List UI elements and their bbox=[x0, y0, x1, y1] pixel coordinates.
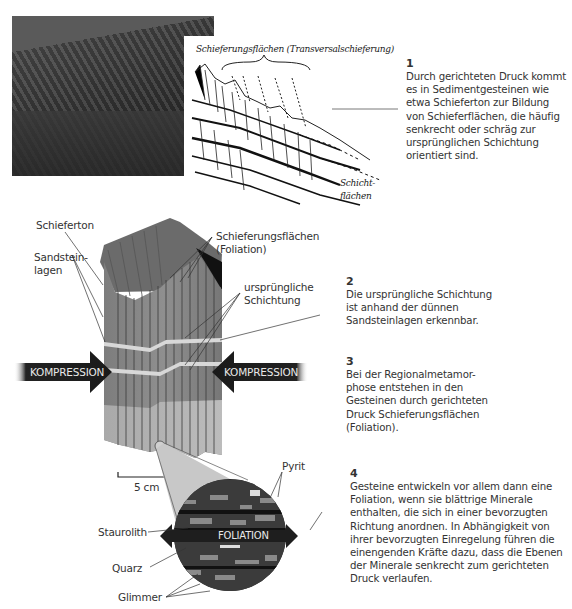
label-pyrit: Pyrit bbox=[282, 460, 305, 473]
note-2-text: Die ursprüngliche Schichtung ist anhand … bbox=[346, 289, 492, 326]
label-schichtung-2: Schichtung bbox=[244, 294, 301, 307]
note-4: 4 Gesteine entwickeln vor allem dann ein… bbox=[350, 468, 568, 586]
note-2-number: 2 bbox=[346, 276, 496, 288]
compression-right-label: KOMPRESSION bbox=[224, 366, 298, 378]
label-sandstein-2: lagen bbox=[34, 264, 62, 277]
note-2: 2 Die ursprüngliche Schichtung ist anhan… bbox=[346, 276, 496, 328]
note-1-text: Durch gerichteten Druck kommt es in Sedi… bbox=[406, 71, 566, 161]
label-sandstein-1: Sandstein- bbox=[34, 251, 88, 264]
note-3-text: Bei der Regionalmetamor-phose entstehen … bbox=[346, 369, 488, 433]
sketch-label-flaechen: flächen bbox=[340, 191, 371, 201]
label-staurolith: Staurolith bbox=[98, 526, 147, 539]
note-3-number: 3 bbox=[346, 356, 496, 368]
label-schichtung-1: ursprüngliche bbox=[244, 281, 314, 294]
foliation-arrow-label: FOLIATION bbox=[218, 530, 269, 541]
sketch-label-schicht: Schicht- bbox=[340, 178, 375, 188]
note-4-text: Gesteine entwickeln vor allem dann eine … bbox=[350, 481, 563, 584]
compression-left-label: KOMPRESSION bbox=[30, 366, 104, 378]
sketch-title: Schieferungsflächen (Transversalschiefer… bbox=[196, 44, 394, 54]
note-3: 3 Bei der Regionalmetamor-phose entstehe… bbox=[346, 356, 496, 434]
label-foliation-1: Schieferungsflächen bbox=[216, 230, 319, 243]
label-glimmer: Glimmer bbox=[118, 591, 162, 604]
label-schieferton: Schieferton bbox=[36, 219, 94, 232]
label-quarz: Quarz bbox=[112, 562, 142, 575]
scale-label: 5 cm bbox=[134, 481, 159, 494]
note-1: 1 Durch gerichteten Druck kommt es in Se… bbox=[406, 58, 568, 162]
note-4-number: 4 bbox=[350, 468, 568, 480]
note-1-number: 1 bbox=[406, 58, 568, 70]
label-foliation-2: (Foliation) bbox=[216, 243, 266, 256]
